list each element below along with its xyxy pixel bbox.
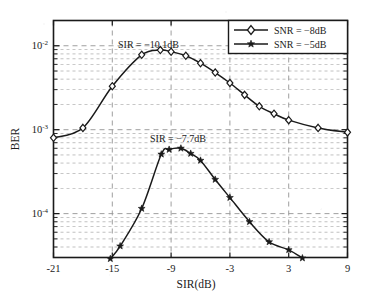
x-tick-label: 3: [286, 263, 291, 274]
annotation-lower-sir: SIR = −7.7dB: [150, 133, 206, 144]
legend-label-snr-8db: SNR = −8dB: [274, 25, 327, 36]
x-tick-label: -9: [167, 263, 176, 274]
x-tick-label: -21: [47, 263, 61, 274]
x-tick-label: -15: [105, 263, 119, 274]
x-axis-title: SIR(dB): [177, 278, 216, 291]
legend-label-snr-5db: SNR = −5dB: [274, 39, 327, 50]
x-tick-label: 9: [345, 263, 350, 274]
x-tick-label: -3: [226, 263, 235, 274]
y-axis-title: BER: [9, 127, 21, 150]
legend: SNR = −8dB SNR = −5dB: [229, 21, 348, 54]
annotation-upper-sir: SIR = −10.1dB: [118, 39, 179, 50]
chart-figure: 10-210-310-4 -21-15-9-339 SIR(dB) BER SI…: [0, 0, 365, 299]
ber-vs-sir-chart: 10-210-310-4 -21-15-9-339 SIR(dB) BER SI…: [0, 0, 365, 299]
